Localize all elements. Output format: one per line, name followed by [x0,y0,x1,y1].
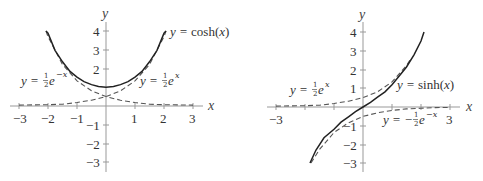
svg-text:e: e [419,112,425,127]
chart-canvas: −3 −2 −1 1 2 3 4 3 2 −1 −2 −3 y x y = co… [0,0,483,181]
left-x-axis-label: x [207,98,215,113]
left-ytick-neg1: −1 [86,118,100,133]
right-ytick-4: 4 [350,25,357,40]
right-neg-half-exp-negx-label: y = − 1 2 e −x [381,110,438,128]
svg-text:2: 2 [44,81,48,89]
left-ytick-2: 2 [93,62,100,77]
svg-text:1: 1 [313,81,317,89]
left-ytick-neg3: −3 [86,155,100,170]
svg-text:e: e [318,82,324,97]
right-x-axis-label: x [465,99,473,114]
left-ytick-4: 4 [93,24,100,39]
right-half-exp-x-label: y = 1 2 e x [288,80,330,98]
svg-text:y =: y = [138,73,158,88]
left-half-exp-negx-label: y = 1 2 e −x [19,70,68,89]
left-xtick-neg1: −1 [70,111,84,126]
right-sinh-label: y = sinh(x) [395,77,454,92]
svg-text:y = −: y = − [381,112,413,127]
svg-text:2: 2 [414,120,418,128]
right-ytick-3: 3 [350,44,357,59]
left-xtick-1: 1 [131,111,138,126]
svg-text:1: 1 [414,111,418,119]
left-xtick-2: 2 [160,111,167,126]
right-ytick-neg1: −1 [343,119,357,134]
left-xtick-3: 3 [189,111,196,126]
right-ytick-2: 2 [350,63,357,78]
left-ytick-neg2: −2 [86,137,100,152]
right-sinh-curve [310,32,424,163]
svg-text:e: e [168,73,174,88]
right-ytick-1: 1 [350,81,357,96]
svg-text:e: e [49,73,55,88]
svg-text:x: x [175,71,180,80]
left-half-exp-x-label: y = 1 2 e x [138,71,180,89]
svg-text:x: x [325,80,330,89]
svg-text:2: 2 [163,81,167,89]
left-ytick-3: 3 [93,43,100,58]
svg-text:y =: y = [288,82,308,97]
left-xtick-neg2: −2 [41,111,55,126]
svg-text:y =: y = [19,73,39,88]
right-xtick-neg3: −3 [269,112,283,127]
right-ytick-neg2: −2 [343,138,357,153]
right-chart: −3 3 4 3 2 1 −1 −2 −3 y x y = sinh(x) y … [267,7,473,172]
svg-text:2: 2 [313,90,317,98]
left-xtick-neg3: −3 [13,111,27,126]
svg-text:−x: −x [426,110,438,119]
left-chart: −3 −2 −1 1 2 3 4 3 2 −1 −2 −3 y x y = co… [10,6,229,172]
svg-text:1: 1 [163,72,167,80]
svg-text:−x: −x [56,70,68,79]
left-y-axis-label: y [100,6,109,21]
right-ytick-neg3: −3 [343,156,357,171]
right-y-axis-label: y [357,7,366,22]
left-cosh-label: y = cosh(x) [168,24,229,39]
right-xtick-3: 3 [446,112,453,127]
svg-text:1: 1 [44,72,48,80]
